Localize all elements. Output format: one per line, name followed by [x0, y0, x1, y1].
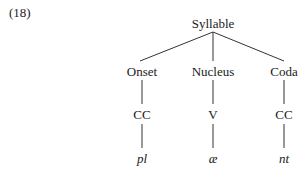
branch-syllable-coda: [213, 32, 284, 61]
leaf-nucleus-segments: æ: [209, 152, 218, 166]
leaf-onset-segments: pl: [137, 152, 147, 166]
branch-syllable-onset: [140, 32, 213, 61]
leaf-coda-segments: nt: [279, 152, 289, 166]
node-coda: Coda: [270, 65, 297, 79]
node-nucleus: Nucleus: [192, 65, 235, 79]
node-onset-skeleton: CC: [133, 108, 150, 122]
node-onset: Onset: [127, 65, 157, 79]
node-coda-skeleton: CC: [275, 108, 292, 122]
node-nucleus-skeleton: V: [208, 108, 217, 122]
tree-branches: [0, 0, 301, 171]
node-syllable: Syllable: [192, 17, 235, 31]
